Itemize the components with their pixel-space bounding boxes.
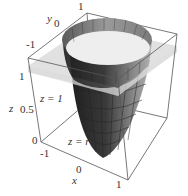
z-tick-1: 1 [19,70,25,82]
x-tick-1: 1 [116,178,122,190]
y-tick-0: 0 [54,17,60,29]
z-axis-label: z [8,102,14,114]
y-axis-label: y [46,12,52,24]
y-tick-1: 1 [78,0,84,12]
z-tick-05: 0.5 [20,103,34,115]
paraboloid-figure: y 0 -1 1 1 z 0.5 0 -1 0 x 1 z = 1 z = r2 [0,0,188,196]
x-axis-label: x [71,174,77,186]
x-tick-neg1: -1 [40,147,49,159]
z-tick-0: 0 [32,134,38,146]
x-tick-0: 0 [76,163,82,175]
surface-label: z = r2 [67,135,93,147]
y-tick-neg1: -1 [26,38,35,50]
plane-label: z = 1 [39,92,63,104]
